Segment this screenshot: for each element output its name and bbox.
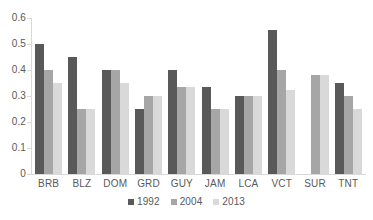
- x-tick-label-lca: LCA: [232, 177, 265, 193]
- plot-area: [32, 18, 365, 174]
- bar-sur-2013: [320, 75, 329, 174]
- y-tick-label: 0.2: [12, 117, 26, 127]
- legend-label-1992: 1992: [137, 197, 160, 207]
- bar-group-sur: [298, 18, 331, 174]
- bar-group-guy: [165, 18, 198, 174]
- x-tick-label-tnt: TNT: [332, 177, 365, 193]
- y-tick-label: 0.5: [12, 39, 26, 49]
- bar-jam-2004: [211, 109, 220, 174]
- y-tick-mark: [27, 148, 31, 149]
- legend-swatch-icon-2004: [171, 199, 177, 205]
- bar-vct-2013: [286, 90, 295, 175]
- bar-vct-1992: [268, 30, 277, 174]
- y-tick-label: 0: [20, 169, 26, 179]
- x-axis-line: [31, 174, 366, 175]
- y-tick-label: 0.4: [12, 65, 26, 75]
- bar-sur-2004: [311, 75, 320, 174]
- x-tick-label-vct: VCT: [265, 177, 298, 193]
- legend-label-2004: 2004: [180, 197, 203, 207]
- bar-lca-2013: [253, 96, 262, 174]
- bar-group-brb: [32, 18, 65, 174]
- legend-item-1992[interactable]: 1992: [128, 197, 160, 207]
- bar-tnt-2013: [353, 109, 362, 174]
- x-tick-label-sur: SUR: [298, 177, 331, 193]
- bar-dom-2013: [120, 83, 129, 174]
- legend-swatch-icon-2013: [213, 199, 219, 205]
- legend-swatch-icon-1992: [128, 199, 134, 205]
- y-tick-label: 0.6: [12, 13, 26, 23]
- bar-lca-2004: [244, 96, 253, 174]
- legend-item-2004[interactable]: 2004: [171, 197, 203, 207]
- y-tick-mark: [27, 18, 31, 19]
- bar-group-blz: [65, 18, 98, 174]
- y-tick-mark: [27, 122, 31, 123]
- bar-jam-1992: [202, 87, 211, 174]
- chart-legend: 1992 2004 2013: [0, 197, 373, 207]
- bar-tnt-2004: [344, 96, 353, 174]
- bar-blz-2013: [86, 109, 95, 174]
- bar-guy-1992: [168, 70, 177, 174]
- bar-group-jam: [198, 18, 231, 174]
- bar-brb-2013: [53, 83, 62, 174]
- bar-chart: 00.10.20.30.40.50.6 BRBBLZDOMGRDGUYJAMLC…: [0, 0, 373, 220]
- bar-brb-2004: [44, 70, 53, 174]
- bar-group-dom: [99, 18, 132, 174]
- x-tick-label-guy: GUY: [165, 177, 198, 193]
- bar-group-lca: [232, 18, 265, 174]
- x-tick-label-jam: JAM: [198, 177, 231, 193]
- bar-grd-2013: [153, 96, 162, 174]
- legend-label-2013: 2013: [222, 197, 245, 207]
- y-tick-mark: [27, 174, 31, 175]
- x-tick-label-blz: BLZ: [65, 177, 98, 193]
- bar-jam-2013: [220, 109, 229, 174]
- bar-guy-2004: [177, 87, 186, 174]
- bar-tnt-1992: [335, 83, 344, 174]
- y-tick-mark: [27, 96, 31, 97]
- x-tick-label-grd: GRD: [132, 177, 165, 193]
- bar-grd-1992: [135, 109, 144, 174]
- bar-group-vct: [265, 18, 298, 174]
- bar-lca-1992: [235, 96, 244, 174]
- legend-item-2013[interactable]: 2013: [213, 197, 245, 207]
- y-axis: 00.10.20.30.40.50.6: [0, 18, 30, 174]
- bar-grd-2004: [144, 96, 153, 174]
- y-tick-label: 0.3: [12, 91, 26, 101]
- x-tick-label-brb: BRB: [32, 177, 65, 193]
- x-tick-label-dom: DOM: [99, 177, 132, 193]
- bar-groups: [32, 18, 365, 174]
- y-tick-mark: [27, 44, 31, 45]
- x-axis: BRBBLZDOMGRDGUYJAMLCAVCTSURTNT: [32, 177, 365, 193]
- bar-group-tnt: [332, 18, 365, 174]
- bar-group-grd: [132, 18, 165, 174]
- y-tick-mark: [27, 70, 31, 71]
- bar-blz-2004: [77, 109, 86, 174]
- y-tick-label: 0.1: [12, 143, 26, 153]
- bar-dom-2004: [111, 70, 120, 174]
- bar-brb-1992: [35, 44, 44, 174]
- bar-blz-1992: [68, 57, 77, 174]
- bar-vct-2004: [277, 70, 286, 174]
- bar-guy-2013: [186, 87, 195, 174]
- bar-dom-1992: [102, 70, 111, 174]
